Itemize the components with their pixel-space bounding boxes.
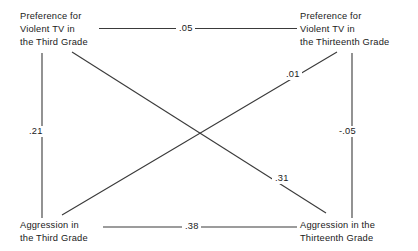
path-label-left-vertical: .21 — [26, 126, 45, 137]
node-label-line: Violent TV in — [20, 23, 88, 36]
path-label-diagonal-ascending: .01 — [283, 69, 302, 80]
node-preference-violent-tv-third-grade: Preference for Violent TV in the Third G… — [20, 10, 88, 50]
cross-lagged-panel-diagram: Preference for Violent TV in the Third G… — [0, 0, 418, 251]
node-label-line: Thirteenth Grade — [300, 232, 375, 245]
node-label-line: Aggression in — [20, 219, 88, 232]
path-label-top-horizontal: .05 — [176, 23, 195, 34]
node-preference-violent-tv-thirteenth-grade: Preference for Violent TV in the Thirtee… — [300, 10, 389, 50]
node-label-line: the Third Grade — [20, 36, 88, 49]
node-aggression-third-grade: Aggression in the Third Grade — [20, 219, 88, 245]
node-label-line: Aggression in the — [300, 219, 375, 232]
node-label-line: Preference for — [300, 10, 389, 23]
node-label-line: Preference for — [20, 10, 88, 23]
node-label-line: the Thirteenth Grade — [300, 36, 389, 49]
path-label-diagonal-descending: .31 — [272, 173, 291, 184]
path-label-bottom-horizontal: .38 — [182, 221, 201, 232]
node-label-line: Violent TV in — [300, 23, 389, 36]
path-label-right-vertical: -.05 — [336, 126, 359, 137]
node-label-line: the Third Grade — [20, 232, 88, 245]
node-aggression-thirteenth-grade: Aggression in the Thirteenth Grade — [300, 219, 375, 245]
